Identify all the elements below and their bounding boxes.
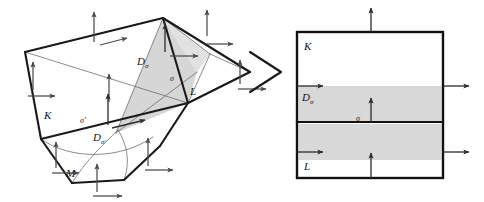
label-d-sigma-right: D — [301, 91, 310, 103]
right-panel: K L D σ σ — [297, 8, 469, 178]
label-d-sigma-left: D — [136, 55, 145, 67]
label-sigma-prime-left: σ′ — [80, 116, 86, 125]
label-k-right: K — [303, 40, 312, 52]
label-d-sigma-prime-group: D σ′ — [92, 131, 106, 146]
left-panel: K L M D σ σ σ′ D σ′ — [25, 10, 266, 196]
panel-connector-chevron — [250, 52, 281, 92]
label-d-sigma-prime: D — [92, 131, 101, 143]
label-l-right: L — [303, 160, 310, 172]
outline-lobe-bottom — [72, 180, 124, 183]
chevron-icon — [250, 52, 281, 92]
figure-root: K L M D σ σ σ′ D σ′ — [0, 0, 484, 202]
shaded-band-lower — [298, 124, 442, 160]
label-d-sigma-left-subscript: σ — [145, 62, 149, 70]
label-d-sigma-right-subscript: σ — [310, 98, 314, 106]
curve-m-right — [118, 130, 127, 180]
math-figure-svg: K L M D σ σ σ′ D σ′ — [0, 0, 484, 202]
label-l-left: L — [189, 85, 196, 97]
label-k-left: K — [43, 109, 52, 121]
label-m-left: M — [65, 167, 76, 179]
outline-lobe-right — [124, 146, 160, 180]
label-d-sigma-prime-subscript: σ′ — [101, 138, 106, 146]
shaded-band-upper — [298, 86, 442, 122]
